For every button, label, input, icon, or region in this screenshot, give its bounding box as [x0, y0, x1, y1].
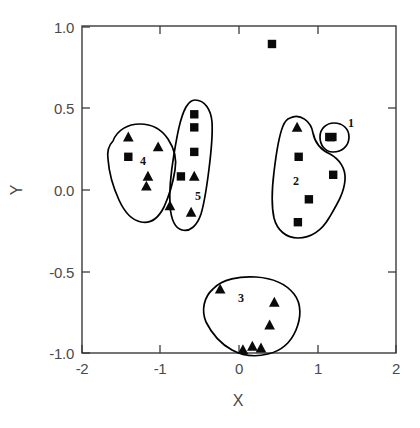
x-axis-title: X	[233, 392, 244, 409]
x-tick-label: -1	[154, 360, 167, 377]
cluster-label-2: 2	[293, 174, 299, 188]
data-point-triangle	[141, 181, 152, 191]
y-tick-label: -0.5	[49, 264, 74, 281]
data-markers	[123, 40, 337, 354]
x-tick-label: -2	[76, 360, 89, 377]
data-point-square	[190, 110, 198, 118]
data-point-triangle	[123, 132, 134, 142]
cluster-hulls	[108, 100, 349, 356]
plot-canvas: -2 -1 0 1 2 -1.0 -0.5 0.0 0.5 1.0 X Y	[0, 0, 420, 428]
x-tick-label: 1	[314, 360, 322, 377]
y-tick-label: -1.0	[49, 345, 74, 362]
x-tick-label: 0	[235, 360, 243, 377]
y-tick-label: 0.0	[54, 182, 74, 199]
y-tick-label: 1.0	[54, 19, 74, 36]
data-point-square	[294, 153, 302, 161]
data-point-square	[268, 40, 276, 48]
data-point-triangle	[186, 207, 197, 217]
data-point-triangle	[247, 341, 258, 351]
data-point-square	[190, 148, 198, 156]
data-point-square-cluster-1	[325, 133, 337, 141]
data-point-square	[294, 218, 302, 226]
y-axis-tick-labels: -1.0 -0.5 0.0 0.5 1.0	[49, 19, 74, 362]
data-point-square	[190, 123, 198, 131]
scatter-plot-figure: -2 -1 0 1 2 -1.0 -0.5 0.0 0.5 1.0 X Y	[0, 0, 420, 428]
data-point-square	[124, 153, 132, 161]
y-axis-title: Y	[8, 184, 25, 195]
data-point-triangle	[189, 171, 200, 181]
cluster-label-1: 1	[348, 116, 354, 130]
data-point-triangle	[256, 342, 267, 352]
y-tick-label: 0.5	[54, 100, 74, 117]
cluster-label-5: 5	[195, 189, 201, 203]
data-point-triangle	[143, 171, 154, 181]
cluster-label-3: 3	[238, 291, 244, 305]
data-point-triangle	[264, 320, 275, 330]
data-point-square	[329, 171, 337, 179]
data-point-triangle	[153, 141, 164, 151]
x-tick-label: 2	[392, 360, 400, 377]
data-point-triangle	[269, 297, 280, 307]
data-point-square	[177, 172, 185, 180]
data-point-square	[305, 195, 313, 203]
cluster-hull-4	[108, 124, 176, 222]
data-point-triangle	[292, 122, 303, 132]
x-axis-tick-labels: -2 -1 0 1 2	[76, 360, 400, 377]
cluster-label-4: 4	[140, 154, 146, 168]
